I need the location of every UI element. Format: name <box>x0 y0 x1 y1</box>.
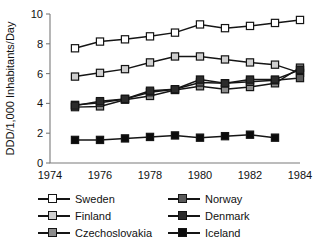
data-point-denmark <box>196 76 203 83</box>
data-point-sweden <box>71 45 78 52</box>
data-point-iceland <box>71 136 78 143</box>
data-point-finland <box>221 56 228 63</box>
data-point-norway <box>296 74 303 81</box>
legend-swatch-icon <box>168 193 200 205</box>
legend-label: Iceland <box>205 227 240 239</box>
legend-item-czechoslovakia[interactable]: Czechoslovakia <box>38 224 166 241</box>
series-line-sweden <box>75 20 300 48</box>
data-point-sweden <box>221 25 228 32</box>
data-point-denmark <box>96 98 103 105</box>
data-point-iceland <box>246 131 253 138</box>
chart-legend: SwedenNorwayFinlandDenmarkCzechoslovakia… <box>38 190 308 241</box>
y-axis-label: DDD/1,000 Inhabitants/Day <box>4 21 16 155</box>
data-point-finland <box>96 69 103 76</box>
legend-swatch-icon <box>38 227 70 239</box>
y-tick-label: 2 <box>37 127 43 139</box>
data-point-finland <box>146 59 153 66</box>
legend-marker-icon <box>178 194 187 203</box>
data-point-iceland <box>271 134 278 141</box>
legend-item-norway[interactable]: Norway <box>168 190 294 207</box>
data-point-sweden <box>296 16 303 23</box>
y-tick-label: 4 <box>37 97 43 109</box>
data-point-denmark <box>246 76 253 83</box>
data-point-denmark <box>121 95 128 102</box>
x-tick-label: 1984 <box>288 169 312 181</box>
legend-marker-icon <box>48 228 57 237</box>
data-point-finland <box>271 61 278 68</box>
legend-label: Denmark <box>205 210 250 222</box>
legend-marker-icon <box>48 194 57 203</box>
x-tick-label: 1976 <box>88 169 112 181</box>
data-point-denmark <box>221 80 228 87</box>
legend-item-finland[interactable]: Finland <box>38 207 166 224</box>
data-point-iceland <box>146 133 153 140</box>
y-tick-label: 0 <box>37 157 43 169</box>
legend-item-iceland[interactable]: Iceland <box>168 224 294 241</box>
x-tick-label: 1982 <box>238 169 262 181</box>
x-tick-label: 1980 <box>188 169 212 181</box>
data-point-sweden <box>121 36 128 43</box>
data-point-sweden <box>196 21 203 28</box>
legend-marker-icon <box>178 211 187 220</box>
legend-swatch-icon <box>38 193 70 205</box>
y-tick-label: 6 <box>37 68 43 80</box>
legend-swatch-icon <box>38 210 70 222</box>
data-point-sweden <box>171 29 178 36</box>
data-point-iceland <box>171 132 178 139</box>
y-tick-label: 10 <box>31 8 43 20</box>
data-point-denmark <box>296 66 303 73</box>
data-point-finland <box>246 59 253 66</box>
data-point-iceland <box>96 136 103 143</box>
data-point-sweden <box>146 33 153 40</box>
line-chart: 0246810197419761978198019821984DDD/1,000… <box>0 0 314 244</box>
data-point-sweden <box>96 38 103 45</box>
x-tick-label: 1978 <box>138 169 162 181</box>
data-point-sweden <box>271 19 278 26</box>
series-line-finland <box>75 56 300 76</box>
x-tick-label: 1974 <box>38 169 62 181</box>
data-point-denmark <box>271 76 278 83</box>
legend-label: Sweden <box>75 193 115 205</box>
legend-marker-icon <box>178 228 187 237</box>
legend-label: Czechoslovakia <box>75 227 152 239</box>
data-point-iceland <box>196 134 203 141</box>
data-point-finland <box>71 73 78 80</box>
legend-label: Norway <box>205 193 242 205</box>
data-point-denmark <box>146 87 153 94</box>
legend-marker-icon <box>48 211 57 220</box>
data-point-denmark <box>171 86 178 93</box>
legend-item-sweden[interactable]: Sweden <box>38 190 166 207</box>
legend-swatch-icon <box>168 210 200 222</box>
data-point-iceland <box>221 133 228 140</box>
data-point-finland <box>121 66 128 73</box>
data-point-denmark <box>71 102 78 109</box>
legend-item-denmark[interactable]: Denmark <box>168 207 294 224</box>
data-point-sweden <box>246 22 253 29</box>
legend-swatch-icon <box>168 227 200 239</box>
data-point-finland <box>196 53 203 60</box>
y-tick-label: 8 <box>37 38 43 50</box>
data-point-finland <box>171 53 178 60</box>
data-point-iceland <box>121 135 128 142</box>
legend-label: Finland <box>75 210 111 222</box>
